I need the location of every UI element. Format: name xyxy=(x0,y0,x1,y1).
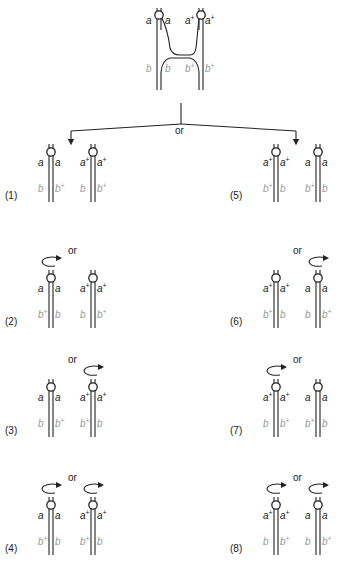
label-b-plus: b+ xyxy=(205,62,215,74)
label-b: b xyxy=(305,536,311,547)
label-b: b xyxy=(80,309,86,320)
centromere xyxy=(89,501,97,509)
chromatid-pair: aabb+ xyxy=(305,482,332,555)
label-a: a+ xyxy=(97,509,107,521)
label-b: b+ xyxy=(322,308,332,320)
panel-number: (1) xyxy=(5,190,17,201)
label-b: b+ xyxy=(97,182,107,194)
panel-1: (1)aabb+a+a+bb+ xyxy=(5,144,107,202)
label-a: a+ xyxy=(80,156,90,168)
top-structure: a a a+ a+ b b b+ b+ xyxy=(146,8,215,90)
chromatid-pair: a+a+b+b xyxy=(263,270,290,328)
panel-4: (4)oraab+ba+a+b+b xyxy=(5,472,107,555)
or-label: or xyxy=(293,472,303,483)
label-a: a+ xyxy=(97,282,107,294)
panel-3: (3)oraabb+a+a+b+b xyxy=(5,354,107,437)
label-b: b+ xyxy=(305,417,315,429)
chromatid-pair: aab+b xyxy=(305,379,328,437)
centromere xyxy=(47,148,55,156)
outcome-panels: (1)aabb+a+a+bb+(2)oraab+ba+a+bb+(3)oraab… xyxy=(5,144,332,555)
label-a: a+ xyxy=(280,391,290,403)
rotation-arrow-icon xyxy=(84,482,104,493)
or-label: or xyxy=(68,245,78,256)
label-b-plus: b+ xyxy=(185,62,195,74)
centromere xyxy=(89,274,97,282)
centromere xyxy=(314,501,322,509)
panel-2: (2)oraab+ba+a+bb+ xyxy=(5,245,107,328)
chromatid-pair: aabb+ xyxy=(305,255,332,328)
rotation-arrow-icon xyxy=(267,482,287,493)
label-b: b+ xyxy=(97,308,107,320)
chromatid-pair: a+a+bb+ xyxy=(263,364,290,437)
label-a: a+ xyxy=(97,156,107,168)
label-a: a xyxy=(305,510,311,521)
label-b: b+ xyxy=(322,535,332,547)
rotation-arrow-icon xyxy=(309,255,329,266)
label-a: a+ xyxy=(263,509,273,521)
label-b: b xyxy=(280,183,286,194)
panel-number: (8) xyxy=(230,543,242,554)
label-b: b+ xyxy=(55,417,65,429)
label-a: a+ xyxy=(280,156,290,168)
rotation-arrow-icon xyxy=(309,482,329,493)
label-b: b xyxy=(165,63,171,74)
label-b: b xyxy=(263,536,269,547)
label-a: a+ xyxy=(280,509,290,521)
label-b: b xyxy=(55,309,61,320)
rotation-arrow-icon xyxy=(42,255,62,266)
or-label: or xyxy=(68,472,78,483)
label-b: b xyxy=(280,309,286,320)
label-b: b xyxy=(305,309,311,320)
label-a: a+ xyxy=(263,391,273,403)
label-b: b+ xyxy=(305,182,315,194)
label-b: b+ xyxy=(263,308,273,320)
panel-8: (8)ora+a+bb+aabb+ xyxy=(230,472,332,555)
chromatid-pair: aabb+ xyxy=(38,379,65,437)
label-a-plus: a+ xyxy=(185,14,195,26)
centromere xyxy=(314,148,322,156)
label-a: a xyxy=(322,392,328,403)
or-label: or xyxy=(293,354,303,365)
label-b: b xyxy=(38,418,44,429)
label-b: b xyxy=(97,418,103,429)
label-a: a xyxy=(38,283,44,294)
label-b: b xyxy=(55,536,61,547)
label-a: a xyxy=(55,283,61,294)
label-a: a+ xyxy=(263,282,273,294)
panel-number: (4) xyxy=(5,543,17,554)
panel-number: (6) xyxy=(230,316,242,327)
centromere xyxy=(272,274,280,282)
chromatid-pair: a+a+bb+ xyxy=(80,270,107,328)
label-a: a+ xyxy=(80,282,90,294)
or-label: or xyxy=(293,245,303,256)
label-b: b xyxy=(146,63,152,74)
label-b: b+ xyxy=(80,417,90,429)
label-a: a xyxy=(38,157,44,168)
label-b: b xyxy=(322,418,328,429)
label-a: a xyxy=(38,510,44,521)
rotation-arrow-icon xyxy=(42,482,62,493)
centromere xyxy=(272,383,280,391)
centromere xyxy=(47,501,55,509)
label-a: a xyxy=(305,283,311,294)
chromatid-pair: a+a+bb+ xyxy=(263,482,290,555)
rotation-arrow-icon xyxy=(84,364,104,375)
centromere xyxy=(314,274,322,282)
label-a-plus: a+ xyxy=(205,14,215,26)
label-a: a xyxy=(38,392,44,403)
panel-7: (7)ora+a+bb+aab+b xyxy=(230,354,328,437)
label-a: a xyxy=(322,510,328,521)
label-b: b+ xyxy=(55,182,65,194)
centromere-right xyxy=(197,11,205,19)
label-a: a xyxy=(55,157,61,168)
label-b: b+ xyxy=(38,308,48,320)
label-b: b+ xyxy=(280,417,290,429)
label-b: b+ xyxy=(80,535,90,547)
label-a: a+ xyxy=(263,156,273,168)
label-b: b+ xyxy=(263,182,273,194)
centromere xyxy=(47,383,55,391)
label-b: b+ xyxy=(38,535,48,547)
label-b: b xyxy=(38,183,44,194)
or-label: or xyxy=(68,354,78,365)
label-b: b xyxy=(263,418,269,429)
